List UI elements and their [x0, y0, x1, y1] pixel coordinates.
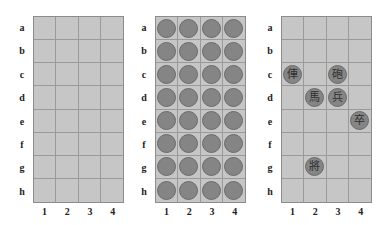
- square-b1[interactable]: [34, 40, 56, 63]
- square-e1[interactable]: [156, 110, 178, 133]
- piece-disc-c1[interactable]: 俥: [283, 65, 302, 84]
- square-d3[interactable]: [201, 86, 223, 109]
- face-down-disc-e4[interactable]: [224, 111, 243, 130]
- square-c3[interactable]: 砲: [327, 63, 349, 86]
- square-d4[interactable]: [223, 86, 245, 109]
- square-h3[interactable]: [327, 179, 349, 202]
- square-b2[interactable]: [56, 40, 78, 63]
- square-f2[interactable]: [178, 133, 200, 156]
- face-down-disc-f3[interactable]: [202, 134, 221, 153]
- square-a1[interactable]: [34, 17, 56, 40]
- face-down-disc-b1[interactable]: [157, 42, 176, 61]
- square-f4[interactable]: [223, 133, 245, 156]
- face-down-disc-g2[interactable]: [179, 157, 198, 176]
- face-down-disc-d2[interactable]: [179, 88, 198, 107]
- square-a3[interactable]: [79, 17, 101, 40]
- square-g1[interactable]: [34, 156, 56, 179]
- face-down-disc-d1[interactable]: [157, 88, 176, 107]
- square-f1[interactable]: [156, 133, 178, 156]
- square-g3[interactable]: [79, 156, 101, 179]
- square-c1[interactable]: [156, 63, 178, 86]
- face-down-disc-h3[interactable]: [202, 181, 221, 200]
- square-d2[interactable]: 馬: [304, 86, 326, 109]
- square-b2[interactable]: [304, 40, 326, 63]
- square-h4[interactable]: [349, 179, 371, 202]
- square-h2[interactable]: [178, 179, 200, 202]
- square-c4[interactable]: [349, 63, 371, 86]
- square-f4[interactable]: [349, 133, 371, 156]
- square-b4[interactable]: [223, 40, 245, 63]
- square-f2[interactable]: [56, 133, 78, 156]
- square-b1[interactable]: [282, 40, 304, 63]
- square-c2[interactable]: [304, 63, 326, 86]
- square-f1[interactable]: [282, 133, 304, 156]
- square-e4[interactable]: [101, 110, 123, 133]
- face-down-disc-b3[interactable]: [202, 42, 221, 61]
- square-f3[interactable]: [327, 133, 349, 156]
- square-e2[interactable]: [178, 110, 200, 133]
- square-d3[interactable]: 兵: [327, 86, 349, 109]
- piece-disc-e4[interactable]: 卒: [350, 111, 369, 130]
- square-f4[interactable]: [101, 133, 123, 156]
- square-a1[interactable]: [282, 17, 304, 40]
- square-g2[interactable]: 將: [304, 156, 326, 179]
- square-c3[interactable]: [79, 63, 101, 86]
- square-e4[interactable]: [223, 110, 245, 133]
- piece-disc-g2[interactable]: 將: [305, 157, 324, 176]
- square-c3[interactable]: [201, 63, 223, 86]
- face-down-disc-g1[interactable]: [157, 157, 176, 176]
- square-b4[interactable]: [101, 40, 123, 63]
- square-d1[interactable]: [282, 86, 304, 109]
- piece-disc-d2[interactable]: 馬: [305, 88, 324, 107]
- square-f3[interactable]: [201, 133, 223, 156]
- square-h1[interactable]: [156, 179, 178, 202]
- square-g3[interactable]: [327, 156, 349, 179]
- square-d1[interactable]: [34, 86, 56, 109]
- face-down-disc-g3[interactable]: [202, 157, 221, 176]
- square-c2[interactable]: [56, 63, 78, 86]
- face-down-disc-f4[interactable]: [224, 134, 243, 153]
- square-d4[interactable]: [101, 86, 123, 109]
- square-d2[interactable]: [178, 86, 200, 109]
- square-a2[interactable]: [56, 17, 78, 40]
- square-f3[interactable]: [79, 133, 101, 156]
- face-down-disc-b2[interactable]: [179, 42, 198, 61]
- face-down-disc-a3[interactable]: [202, 19, 221, 38]
- square-b1[interactable]: [156, 40, 178, 63]
- square-c1[interactable]: [34, 63, 56, 86]
- face-down-disc-g4[interactable]: [224, 157, 243, 176]
- square-c4[interactable]: [223, 63, 245, 86]
- face-down-disc-e2[interactable]: [179, 111, 198, 130]
- square-e2[interactable]: [56, 110, 78, 133]
- square-d3[interactable]: [79, 86, 101, 109]
- square-g1[interactable]: [282, 156, 304, 179]
- square-g4[interactable]: [349, 156, 371, 179]
- square-g2[interactable]: [178, 156, 200, 179]
- square-d1[interactable]: [156, 86, 178, 109]
- square-g4[interactable]: [101, 156, 123, 179]
- square-h3[interactable]: [201, 179, 223, 202]
- square-e3[interactable]: [327, 110, 349, 133]
- face-down-disc-e1[interactable]: [157, 111, 176, 130]
- square-a2[interactable]: [178, 17, 200, 40]
- square-h1[interactable]: [34, 179, 56, 202]
- square-b3[interactable]: [201, 40, 223, 63]
- square-h3[interactable]: [79, 179, 101, 202]
- square-h4[interactable]: [223, 179, 245, 202]
- square-d4[interactable]: [349, 86, 371, 109]
- face-down-disc-h1[interactable]: [157, 181, 176, 200]
- face-down-disc-a4[interactable]: [224, 19, 243, 38]
- face-down-disc-c4[interactable]: [224, 65, 243, 84]
- square-e3[interactable]: [79, 110, 101, 133]
- square-h1[interactable]: [282, 179, 304, 202]
- face-down-disc-c1[interactable]: [157, 65, 176, 84]
- face-down-disc-b4[interactable]: [224, 42, 243, 61]
- square-e1[interactable]: [282, 110, 304, 133]
- square-c2[interactable]: [178, 63, 200, 86]
- face-down-disc-a1[interactable]: [157, 19, 176, 38]
- square-g4[interactable]: [223, 156, 245, 179]
- square-f2[interactable]: [304, 133, 326, 156]
- square-b2[interactable]: [178, 40, 200, 63]
- square-a3[interactable]: [327, 17, 349, 40]
- face-down-disc-f2[interactable]: [179, 134, 198, 153]
